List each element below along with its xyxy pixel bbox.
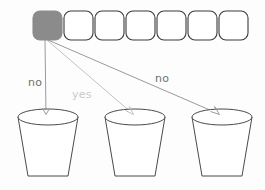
edge-right-label: no	[155, 72, 169, 85]
bucket-2-rim	[105, 109, 165, 125]
bucket-2[interactable]	[105, 109, 165, 176]
edge-middle-line	[47, 40, 133, 114]
cell-3[interactable]	[126, 11, 155, 40]
cell-row	[33, 11, 248, 40]
bucket-1-body	[18, 117, 78, 176]
bucket-1[interactable]	[18, 109, 78, 176]
cell-0[interactable]	[33, 11, 62, 40]
edge-left-line	[45, 40, 46, 114]
cell-6[interactable]	[219, 11, 248, 40]
edge-right-line	[48, 40, 219, 114]
cell-1[interactable]	[64, 11, 93, 40]
diagram-svg: no yes no	[0, 0, 265, 190]
cell-4[interactable]	[157, 11, 186, 40]
edge-label-group: no yes no	[28, 72, 169, 101]
edge-left-label: no	[28, 76, 42, 89]
cell-5[interactable]	[188, 11, 217, 40]
bucket-3-rim	[192, 109, 252, 125]
bucket-group	[18, 109, 252, 176]
bucket-2-body	[105, 117, 165, 176]
edge-group	[43, 40, 220, 115]
cell-2[interactable]	[95, 11, 124, 40]
bucket-3-body	[192, 117, 252, 176]
diagram-canvas: no yes no	[0, 0, 265, 190]
bucket-3[interactable]	[192, 109, 252, 176]
edge-middle-label: yes	[72, 88, 92, 101]
